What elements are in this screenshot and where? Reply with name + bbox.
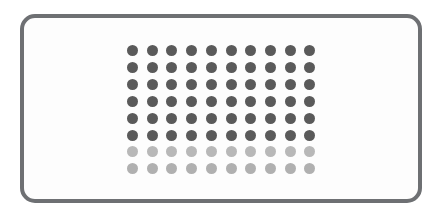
- rounded-rectangle-frame: [20, 14, 422, 203]
- canvas: [0, 0, 446, 217]
